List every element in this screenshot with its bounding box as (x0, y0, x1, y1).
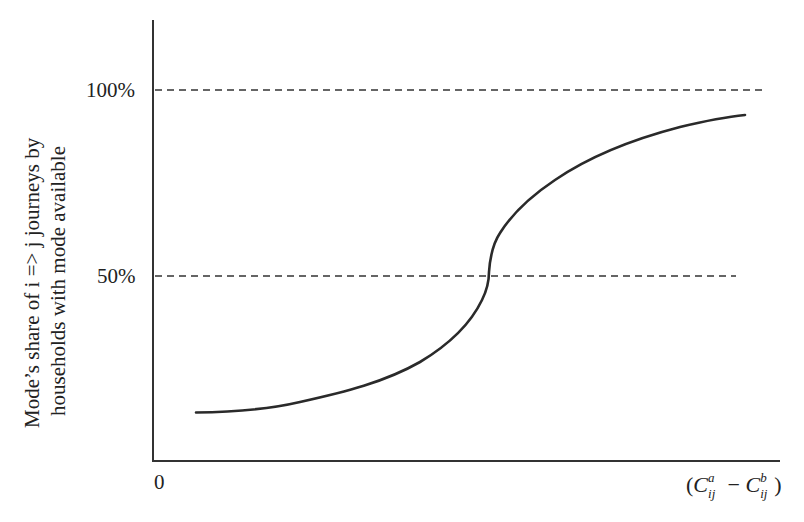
x-title-minus: − (728, 472, 740, 497)
x-title-c2-indices: bij (760, 476, 774, 498)
x-title-c1-sup: a (708, 470, 715, 486)
y-axis-title-line-2: households with mode available (46, 146, 71, 416)
x-title-c1: C (693, 472, 708, 497)
x-title-c1-indices: aij (708, 476, 722, 498)
y-tick-label-50: 50% (97, 264, 136, 289)
y-axis-title-line-1: Mode’s share of i => j journeys by (20, 138, 45, 428)
x-title-c2-sub: ij (760, 486, 767, 502)
x-title-c1-sub: ij (708, 486, 715, 502)
x-title-c2: C (745, 472, 760, 497)
x-title-close-paren: ) (774, 472, 781, 497)
x-axis-title: (Caij − Cbij) (686, 472, 781, 498)
s-curve-line (196, 115, 745, 413)
x-tick-label-0: 0 (154, 470, 165, 495)
y-tick-label-100: 100% (86, 78, 135, 103)
x-title-c2-sup: b (760, 470, 767, 486)
